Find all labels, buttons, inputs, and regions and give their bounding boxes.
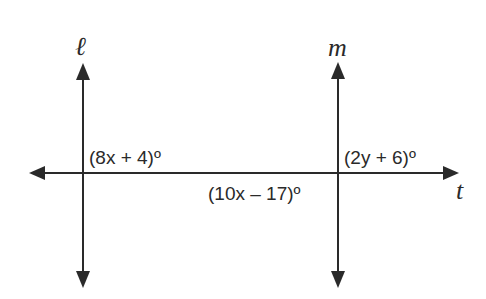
line-t — [29, 166, 459, 180]
parallel-lines-diagram: ℓ m t (8x + 4)º (10x – 17)º (2y + 6)º — [0, 0, 486, 299]
arrow-left-icon — [29, 166, 45, 180]
line-l-label: ℓ — [75, 32, 86, 61]
arrow-down-icon — [76, 271, 90, 288]
angle-label-10x-minus-17: (10x – 17)º — [208, 183, 301, 204]
line-t-label: t — [456, 176, 464, 205]
line-m — [331, 62, 345, 288]
arrow-up-icon — [331, 62, 345, 79]
line-m-label: m — [328, 33, 347, 62]
angle-label-8x-plus-4: (8x + 4)º — [89, 147, 161, 168]
arrow-down-icon — [331, 271, 345, 288]
angle-label-2y-plus-6: (2y + 6)º — [344, 147, 416, 168]
arrow-up-icon — [76, 63, 90, 80]
line-l — [76, 63, 90, 288]
